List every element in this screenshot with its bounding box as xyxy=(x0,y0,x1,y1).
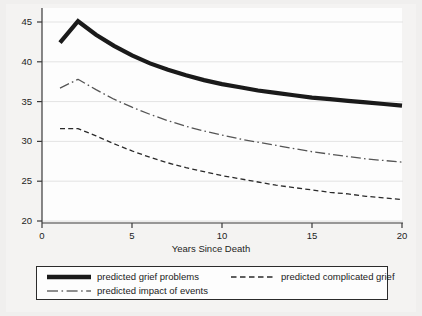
legend-item-predicted-complicated-grief: predicted complicated grief xyxy=(230,271,395,282)
x-tick-label: 5 xyxy=(117,230,147,241)
gridlines xyxy=(42,22,403,221)
legend-label: predicted grief problems xyxy=(97,271,199,282)
data-series-group xyxy=(60,21,402,199)
y-tick-label: 30 xyxy=(8,135,32,146)
chart-legend: predicted grief problems predicted compl… xyxy=(36,266,388,300)
x-tick-label: 20 xyxy=(387,230,417,241)
series-line-predicted-complicated-grief xyxy=(60,129,402,200)
y-tick-label: 40 xyxy=(8,56,32,67)
solid-thick-line-swatch xyxy=(46,272,92,282)
axes xyxy=(42,8,403,223)
series-line-predicted-grief-problems xyxy=(60,21,402,105)
dash-dot-line-swatch xyxy=(46,286,92,296)
x-tick-label: 15 xyxy=(297,230,327,241)
y-tick-label: 25 xyxy=(8,175,32,186)
series-line-predicted-impact-of-events xyxy=(60,79,402,162)
legend-label: predicted complicated grief xyxy=(281,271,395,282)
x-tick-label: 0 xyxy=(27,230,57,241)
x-tick-label: 10 xyxy=(207,230,237,241)
y-tick-label: 35 xyxy=(8,96,32,107)
legend-label: predicted impact of events xyxy=(97,285,208,296)
y-tick-label: 20 xyxy=(8,215,32,226)
x-axis-title: Years Since Death xyxy=(0,243,422,254)
chart-figure: 202530354045 05101520 Years Since Death … xyxy=(0,0,422,316)
legend-item-predicted-impact-of-events: predicted impact of events xyxy=(46,285,208,296)
tick-marks xyxy=(37,22,402,228)
dashed-line-swatch xyxy=(230,272,276,282)
legend-item-predicted-grief-problems: predicted grief problems xyxy=(46,271,199,282)
y-tick-label: 45 xyxy=(8,16,32,27)
